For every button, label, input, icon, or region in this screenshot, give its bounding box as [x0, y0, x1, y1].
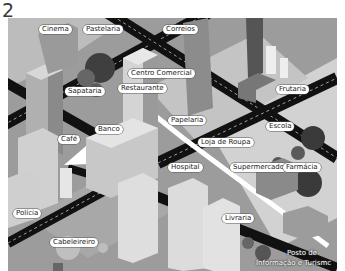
label-farmacia: Farmácia [283, 163, 321, 172]
label-frutaria: Frutaria [276, 85, 309, 94]
label-restaurante: Restaurante [118, 84, 167, 93]
label-pastelaria: Pastelaria [83, 25, 123, 34]
map-illustration [8, 18, 337, 271]
label-correios: Correios [163, 25, 198, 34]
label-centro-comercial: Centro Comercial [128, 69, 195, 78]
label-posto-turismo-line2: Informação e Turismc [253, 259, 334, 268]
label-sapataria: Sapataria [65, 87, 105, 96]
label-hospital: Hospital [168, 163, 203, 172]
label-cinema: Cinema [39, 25, 72, 34]
label-papelaria: Papelaria [168, 116, 206, 125]
label-cafe: Café [58, 135, 80, 144]
label-livraria: Livraria [222, 214, 254, 223]
city-map: Cinema Pastelaria Correios Centro Comerc… [8, 18, 337, 271]
label-posto-turismo-line1: Posto de [284, 249, 320, 258]
label-supermercado: Supermercado [230, 163, 287, 172]
label-policia: Polícia [13, 209, 41, 218]
label-escola: Escola [266, 122, 294, 131]
label-banco: Banco [95, 125, 123, 134]
label-loja-de-roupa: Loja de Roupa [198, 138, 254, 147]
label-cabeleireiro: Cabeleireiro [50, 238, 98, 247]
